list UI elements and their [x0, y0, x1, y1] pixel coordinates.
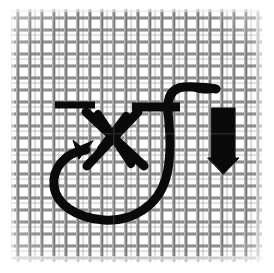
figure-canvas [0, 0, 274, 273]
screen-repair-figure [0, 0, 274, 273]
thread-tail-tip [192, 84, 220, 93]
